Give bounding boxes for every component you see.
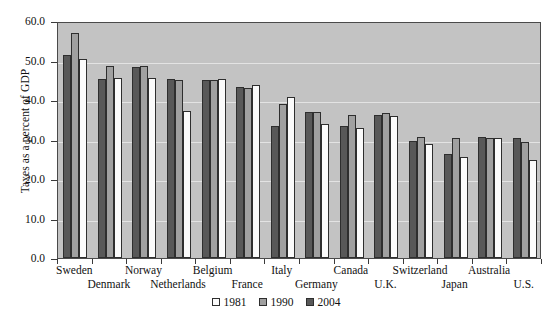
bar-group — [409, 23, 433, 258]
bar — [71, 33, 79, 258]
chart-legend: 198119902004 — [0, 296, 552, 308]
bar — [79, 59, 87, 258]
bar — [390, 116, 398, 258]
x-axis-label: France — [231, 278, 262, 290]
legend-swatch-icon — [306, 298, 314, 306]
legend-swatch-icon — [259, 298, 267, 306]
x-axis-label: U.S. — [513, 278, 533, 290]
gridline — [58, 142, 540, 143]
bar — [305, 112, 313, 258]
x-axis-tick — [541, 259, 542, 264]
bar — [140, 66, 148, 258]
x-axis-label: Japan — [441, 278, 467, 290]
bar — [409, 141, 417, 258]
gridline — [58, 181, 540, 182]
bar — [486, 138, 494, 258]
y-axis-tick-label: 50.0 — [0, 56, 45, 67]
bar — [313, 112, 321, 258]
bar — [444, 154, 452, 258]
bar — [148, 78, 156, 259]
bar — [374, 115, 382, 258]
legend-entry: 2004 — [306, 296, 341, 308]
y-axis-tick-label: 20.0 — [0, 174, 45, 185]
bar — [252, 85, 260, 258]
bar-group — [167, 23, 191, 258]
x-axis-label: Denmark — [87, 278, 130, 290]
legend-label: 1990 — [271, 296, 294, 308]
bar — [425, 144, 433, 258]
legend-entry: 1981 — [212, 296, 247, 308]
gridline — [58, 102, 540, 103]
bar-group — [63, 23, 87, 258]
y-axis-tick-label: 40.0 — [0, 95, 45, 106]
bar — [218, 79, 226, 258]
bar — [106, 66, 114, 258]
y-axis-tick-label: 30.0 — [0, 135, 45, 146]
x-axis-tick — [368, 259, 369, 264]
bar — [529, 160, 537, 258]
bar — [63, 55, 71, 258]
bar-group — [340, 23, 364, 258]
x-axis-label: Switzerland — [393, 264, 448, 276]
legend-label: 2004 — [318, 296, 341, 308]
bar — [175, 80, 183, 258]
x-axis-label: Italy — [271, 264, 292, 276]
y-axis-tick-label: 0.0 — [0, 253, 45, 264]
bar — [183, 111, 191, 258]
bar — [452, 138, 460, 258]
bar — [210, 80, 218, 258]
x-axis-label: Australia — [468, 264, 510, 276]
bar — [382, 113, 390, 258]
x-axis-label: Belgium — [193, 264, 233, 276]
bar-group — [374, 23, 398, 258]
bar-group — [236, 23, 260, 258]
bar — [321, 124, 329, 258]
legend-entry: 1990 — [259, 296, 294, 308]
bar-group — [478, 23, 502, 258]
x-axis-label: U.K. — [374, 278, 396, 290]
gridline — [58, 221, 540, 222]
x-axis-tick — [299, 259, 300, 264]
bar-chart: Taxes as a percent of GDP 60.050.040.030… — [0, 0, 552, 319]
bar-group — [202, 23, 226, 258]
y-axis-tick-label: 10.0 — [0, 214, 45, 225]
bar-group — [271, 23, 295, 258]
bar — [340, 126, 348, 258]
legend-swatch-icon — [212, 298, 220, 306]
gridline — [58, 63, 540, 64]
bar — [114, 78, 122, 259]
bar — [417, 137, 425, 258]
bar-group — [305, 23, 329, 258]
x-axis-label: Germany — [295, 278, 338, 290]
plot-area — [57, 22, 541, 259]
bar — [513, 138, 521, 258]
bar — [167, 79, 175, 258]
x-axis-tick — [264, 259, 265, 264]
x-axis-label: Sweden — [56, 264, 92, 276]
bar — [132, 67, 140, 258]
bar — [478, 137, 486, 258]
x-axis-label: Netherlands — [150, 278, 206, 290]
bar — [236, 87, 244, 258]
bar — [348, 115, 356, 258]
bar — [98, 79, 106, 258]
bar-group — [132, 23, 156, 258]
bar — [279, 104, 287, 258]
bar — [271, 126, 279, 258]
x-axis-label: Norway — [125, 264, 162, 276]
bar-group — [444, 23, 468, 258]
bar — [460, 157, 468, 258]
x-axis-label: Canada — [334, 264, 368, 276]
bar — [202, 80, 210, 258]
bar — [356, 128, 364, 258]
bar — [521, 142, 529, 258]
y-axis-tick-label: 60.0 — [0, 16, 45, 27]
bar — [244, 88, 252, 258]
bar — [494, 138, 502, 258]
bar-group — [513, 23, 537, 258]
bar-group — [98, 23, 122, 258]
legend-label: 1981 — [224, 296, 247, 308]
bar — [287, 97, 295, 258]
